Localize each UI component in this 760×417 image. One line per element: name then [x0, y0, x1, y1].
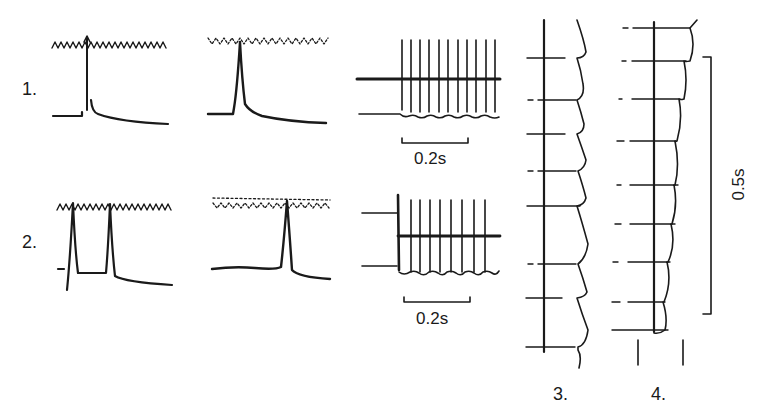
traces-canvas	[0, 0, 760, 417]
row1-label: 1.	[22, 80, 37, 98]
column4-label: 4.	[651, 385, 666, 403]
column4-markers	[638, 340, 683, 365]
column4-sweep-stack	[612, 20, 711, 365]
row2-panel-a-trace	[57, 203, 172, 290]
row2-label: 2.	[22, 233, 37, 251]
row2-scale-label: 0.2s	[416, 310, 448, 327]
row2-scale-bar	[404, 297, 470, 302]
row1-panel-b-trace	[208, 38, 328, 123]
row1-panel-c-trace	[357, 40, 500, 143]
row1-scale-bar	[402, 138, 468, 143]
column3-label: 3.	[553, 385, 568, 403]
row2-panel-c-trace	[362, 195, 500, 302]
column4-scale-label: 0.5s	[730, 165, 747, 205]
column4-scale-bar	[703, 57, 711, 314]
row2-panel-b-trace	[212, 198, 330, 279]
row1-scale-label: 0.2s	[414, 150, 446, 167]
row1-panel-a-trace	[52, 36, 168, 124]
column3-sweep-stack	[526, 20, 588, 368]
figure: 1. 2. 3. 4. 0.2s 0.2s 0.5s	[0, 0, 760, 417]
